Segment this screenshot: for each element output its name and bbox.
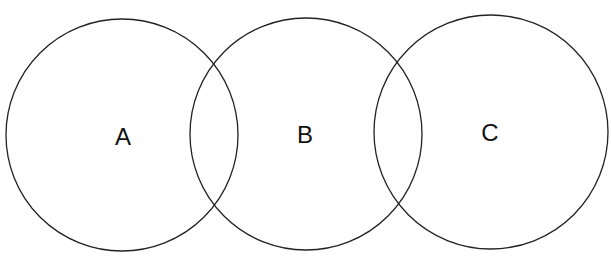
circle-a-label: A [115,123,131,150]
circle-a: A [6,19,238,251]
venn-diagram: A B C [0,0,611,262]
circle-b-label: B [297,121,313,148]
circle-c: C [374,15,608,249]
circle-c-label: C [481,119,498,146]
circle-b: B [190,18,422,250]
